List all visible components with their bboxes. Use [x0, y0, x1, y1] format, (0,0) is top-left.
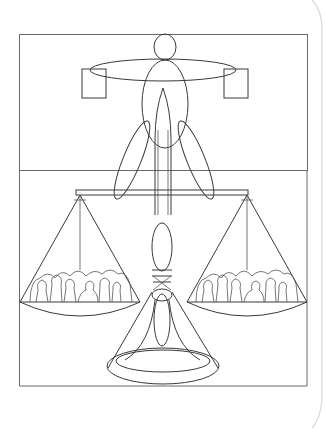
base-cone	[108, 292, 218, 368]
page-curl	[312, 0, 322, 428]
base	[107, 348, 219, 384]
frame	[20, 35, 308, 171]
right-hand-square	[224, 69, 248, 98]
inner-spindle	[154, 294, 170, 346]
right-pan	[187, 302, 307, 316]
balance-scale-illustration	[0, 0, 325, 430]
pillar-oval	[152, 223, 172, 271]
left-pan	[20, 302, 140, 316]
crowd-left	[30, 270, 132, 302]
beam	[76, 190, 248, 195]
arms	[90, 59, 236, 81]
head	[154, 34, 176, 60]
crowd-right	[196, 270, 298, 302]
